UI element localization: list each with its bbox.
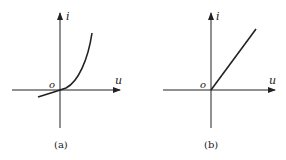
linear-characteristic-b [211,29,256,90]
figure-b: i u o (b) [163,10,276,150]
figure-a: i u o (a) [12,10,122,150]
caption-b: (b) [204,139,218,150]
caption-a: (a) [54,139,68,150]
y-axis-label-b: i [216,10,220,23]
origin-label-b: o [200,79,206,90]
origin-label-a: o [49,79,55,90]
exponential-curve-a [38,33,92,97]
iv-characteristics-diagram: i u o (a) i u o (b) [0,0,286,160]
y-axis-label-a: i [66,10,70,23]
x-axis-label-b: u [269,74,276,87]
x-axis-label-a: u [115,74,122,87]
